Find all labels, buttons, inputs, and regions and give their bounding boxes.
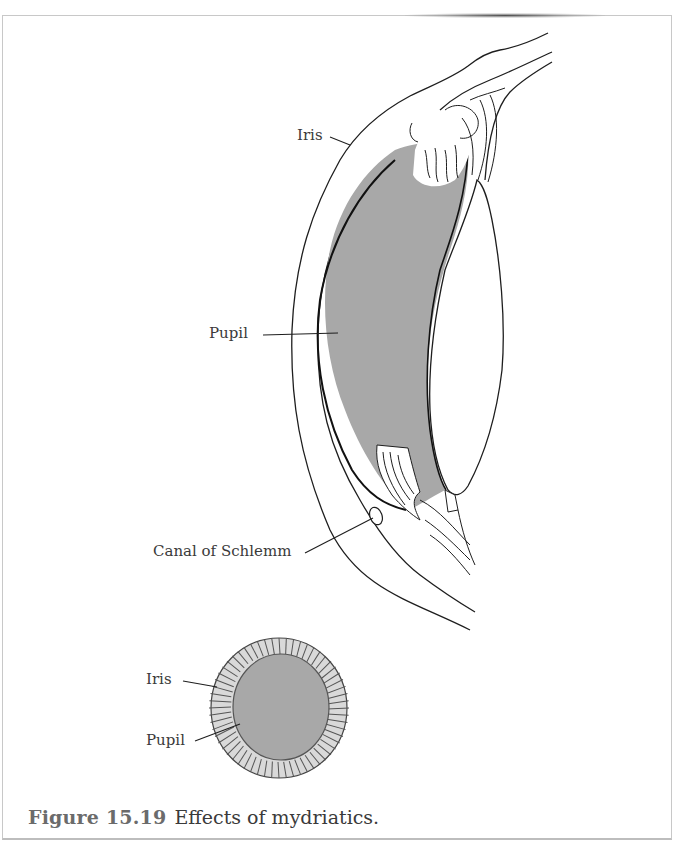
label-iris-front: Iris: [146, 672, 172, 687]
sclera-inner-line: [485, 62, 552, 180]
iris-leader-line: [330, 137, 350, 145]
canal-leader-line: [305, 518, 373, 553]
front-view-eye: [183, 638, 349, 778]
label-iris-side: Iris: [297, 128, 323, 143]
front-iris-leader-line: [183, 681, 217, 687]
front-pupil: [233, 654, 329, 760]
label-canal-of-schlemm: Canal of Schlemm: [153, 544, 291, 559]
figure-number: Figure 15.19: [28, 806, 166, 828]
canal-of-schlemm: [367, 505, 384, 526]
eye-diagram: [0, 0, 694, 855]
cornea-inner-line: [440, 52, 552, 110]
figure-caption: Figure 15.19Effects of mydriatics.: [28, 808, 379, 827]
label-pupil-front: Pupil: [146, 733, 185, 748]
label-pupil-side: Pupil: [209, 326, 248, 341]
figure-title: Effects of mydriatics.: [174, 806, 379, 828]
